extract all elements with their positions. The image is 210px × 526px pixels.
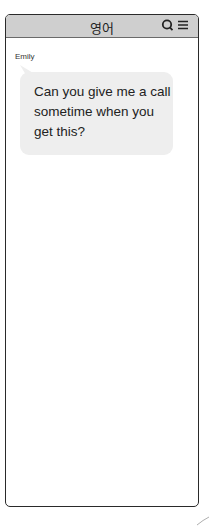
menu-icon[interactable] (177, 18, 190, 32)
message-text: Can you give me a call sometime when you… (34, 82, 172, 142)
message-bubble: Can you give me a call sometime when you… (20, 72, 173, 155)
phone-frame: 영어 Emily Can you give me a call sometime… (5, 14, 199, 507)
chat-header: 영어 (6, 15, 198, 38)
search-icon[interactable] (161, 18, 174, 32)
header-actions (161, 18, 190, 32)
pen-mark-decoration (196, 516, 210, 526)
sender-name: Emily (15, 52, 35, 61)
